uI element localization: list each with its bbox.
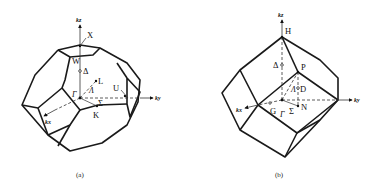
gamma-K-line (80, 98, 97, 106)
point-gamma (281, 99, 284, 102)
label-W: W (72, 56, 80, 66)
label-D: D (300, 84, 306, 94)
kx-axis (44, 110, 55, 116)
point-delta (281, 64, 284, 67)
label-ky: ky (354, 97, 360, 103)
figure-b: kz ky kx H Δ P Λ D N G Γ Σ (b) (222, 12, 360, 179)
label-Lambda: Λ (88, 86, 94, 95)
kx-axis-dashed (55, 98, 80, 110)
figure-a: kz ky kx X W Δ L Λ Γ U Σ K (a) (22, 17, 161, 179)
label-kx: kx (236, 107, 242, 113)
label-Delta: Δ (83, 66, 89, 76)
point-P (297, 71, 299, 73)
point-H (281, 36, 283, 38)
point-N (297, 105, 299, 107)
bcc-zone-edges (222, 37, 338, 157)
label-K: K (93, 110, 100, 120)
point-G (269, 102, 271, 104)
label-Delta: Δ (273, 60, 279, 70)
label-Lambda: Λ (290, 85, 296, 94)
label-Gamma: Γ (71, 90, 77, 99)
caption-a: (a) (76, 171, 84, 179)
label-kz: kz (278, 12, 284, 18)
label-Sigma: Σ (98, 98, 103, 108)
caption-b: (b) (275, 171, 284, 179)
label-Sigma: Σ (289, 106, 294, 116)
brillouin-zone-diagrams: kz ky kx X W Δ L Λ Γ U Σ K (a) (0, 0, 377, 190)
label-G: G (270, 106, 276, 116)
label-L: L (98, 76, 103, 86)
label-H: H (285, 26, 291, 36)
point-gamma (79, 97, 82, 100)
label-kx: kx (45, 119, 51, 125)
label-Gamma: Γ (279, 110, 285, 119)
label-N: N (301, 102, 307, 112)
label-kz: kz (76, 17, 82, 23)
point-delta (79, 70, 82, 73)
point-L (95, 80, 97, 82)
point-D (297, 87, 300, 90)
label-U: U (113, 83, 119, 93)
label-X: X (87, 30, 93, 40)
label-P: P (301, 62, 306, 72)
label-ky: ky (155, 95, 161, 101)
